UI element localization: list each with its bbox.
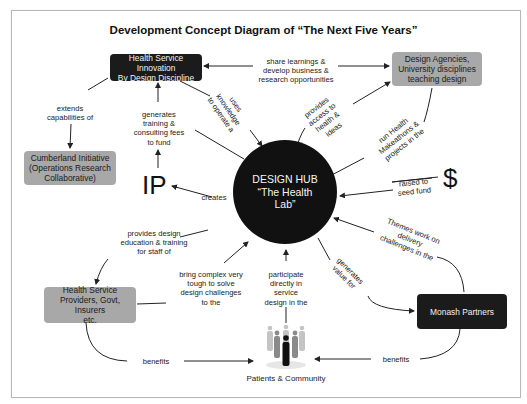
hub-line-2: “The Health [258,186,313,199]
edge-label-creates: creates [194,193,234,202]
edge-label-provides-education: provides design education & training for… [104,229,204,257]
node-cumberland-initiative: Cumberland Initiative (Operations Resear… [24,151,116,185]
ip-label: IP [142,170,167,201]
hub-line-1: DESIGN HUB [252,173,317,186]
edge-label-bring-complex: bring complex very tough to solve design… [166,270,256,307]
hub-line-3: Lab” [274,198,295,211]
edge-label-participate: participate directly in service design i… [258,270,314,307]
design-hub-circle: DESIGN HUB “The Health Lab” [233,140,337,244]
edge-label-benefits-right: benefits [374,355,418,364]
edge-label-benefits-left: benefits [134,357,178,366]
edge-label-generates-training: generates training & consulting fees to … [126,110,192,147]
node-monash-partners: Monash Partners [417,294,507,329]
node-patients-community: Patients & Community [236,374,336,383]
node-health-service-providers: Health Service Providers, Govt, Insurers… [44,287,136,323]
diagram-title: Development Concept Diagram of “The Next… [0,24,527,36]
edge-label-share-learnings: share learnings & develop business & res… [246,57,346,85]
dollar-icon: $ [443,163,457,194]
edge-label-extends-capabilities: extends capabilities of [30,104,110,122]
node-health-service-innovation: Health Service Innovation By Design Disc… [110,54,202,81]
people-group-icon [262,323,310,371]
node-design-agencies: Design Agencies, University disciplines … [392,52,482,86]
